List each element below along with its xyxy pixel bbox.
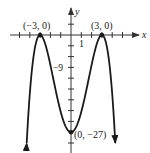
x-axis-label: x: [141, 29, 147, 40]
point-label-right: (3, 0): [91, 20, 113, 32]
point-label-left: (−3, 0): [23, 20, 50, 32]
y-axis-label: y: [74, 6, 80, 17]
point-label-min: (0, −27): [74, 129, 106, 141]
x-tick-label-1: 1: [79, 38, 84, 49]
quartic-graph: y x 1 −9 (−3, 0) (3, 0) (0, −27): [0, 0, 150, 153]
point-right-intercept: [100, 33, 105, 38]
y-tick-label-neg9: −9: [53, 63, 63, 73]
point-left-intercept: [38, 33, 43, 38]
point-minimum: [69, 130, 74, 135]
